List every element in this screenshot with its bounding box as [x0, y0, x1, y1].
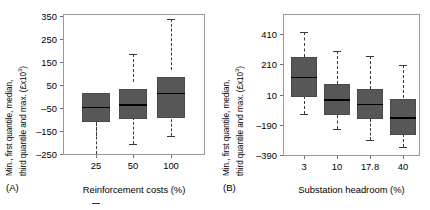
panel-a-xtick-mark	[133, 155, 134, 158]
panel-a-xtick-mark	[171, 155, 172, 158]
box-iqr	[157, 77, 185, 119]
whisker-upper	[370, 56, 371, 89]
whisker-cap-lower	[129, 144, 137, 145]
median-line	[291, 77, 317, 78]
whisker-lower	[96, 122, 97, 154]
panel-a-tag: (A)	[6, 182, 19, 193]
panel-b-xtick-label: 3	[301, 161, 306, 172]
panel-b-ytick-label: –390	[247, 150, 277, 161]
whisker-cap-lower	[167, 136, 175, 137]
panel-b-xtick-label: 10	[332, 161, 342, 172]
whisker-cap-lower	[366, 140, 374, 141]
panel-b-xtick-label: 17.8	[361, 161, 379, 172]
median-line	[390, 117, 416, 118]
whisker-upper	[337, 51, 338, 84]
panel-b-tag: (B)	[223, 182, 236, 193]
whisker-lower	[337, 115, 338, 129]
panel-a-xtick-label: 50	[128, 160, 138, 171]
whisker-upper	[403, 65, 404, 98]
panel-a-ytick-label: 50	[29, 80, 57, 91]
panel-a-ytick-label: 150	[29, 57, 57, 68]
panel-b-ytick-label: 410	[247, 29, 277, 40]
panel-b-x-axis-title: Substation headroom (%)	[283, 184, 420, 195]
panel-b-y-axis-title-line1: Min., first quantile, median,	[221, 66, 232, 176]
panel-b: Min., first quantile, median, third quan…	[215, 0, 430, 210]
whisker-lower	[304, 96, 305, 114]
panel-a-xtick-label: 25	[91, 160, 101, 171]
whisker-cap-upper	[333, 51, 341, 52]
panel-a-xtick-label: 100	[163, 160, 179, 171]
panel-a-y-axis-title-line1: Min., first quantile, median,	[4, 66, 15, 176]
panel-b-xtick-mark	[370, 156, 371, 159]
whisker-cap-upper	[366, 56, 374, 57]
panel-a: Min., first quantile, median, third quan…	[0, 0, 215, 210]
panel-a-ytick-label: 250	[29, 34, 57, 45]
whisker-cap-lower	[92, 203, 100, 204]
panel-a-ytick-label: –250	[29, 149, 57, 160]
whisker-upper	[171, 19, 172, 70]
panel-b-xtick-mark	[403, 156, 404, 159]
whisker-upper	[304, 32, 305, 57]
panel-a-xtick-mark	[96, 155, 97, 158]
whisker-lower	[133, 117, 134, 144]
whisker-cap-upper	[300, 32, 308, 33]
panel-b-ytick-label: 10	[247, 90, 277, 101]
median-line	[157, 93, 185, 94]
median-line	[119, 104, 147, 105]
panel-b-ytick-label: 210	[247, 59, 277, 70]
whisker-cap-upper	[399, 65, 407, 66]
panel-b-y-axis-title: Min., first quantile, median, third quan…	[221, 66, 245, 176]
whisker-cap-lower	[300, 114, 308, 115]
whisker-upper	[133, 54, 134, 82]
panel-b-ytick-label: –190	[247, 120, 277, 131]
panel-b-xtick-mark	[337, 156, 338, 159]
median-line	[324, 99, 350, 100]
whisker-lower	[403, 134, 404, 147]
panel-a-y-axis-title: Min., first quantile, median, third quan…	[4, 66, 28, 176]
panel-a-ytick-label: –150	[29, 126, 57, 137]
median-line	[357, 104, 383, 105]
panel-a-y-axis-title-line2: third quantile and max. (£x103)	[15, 66, 28, 176]
whisker-cap-lower	[333, 129, 341, 130]
panel-a-ytick-label: –50	[29, 103, 57, 114]
panel-b-xtick-mark	[304, 156, 305, 159]
panel-a-ytick-label: 350	[29, 11, 57, 22]
median-line	[82, 107, 110, 108]
panel-a-x-axis-title: Reinforcement costs (%)	[63, 184, 205, 195]
whisker-lower	[370, 119, 371, 140]
panel-b-y-axis-title-line2: third quantile and max. (£x103)	[232, 66, 245, 176]
whisker-cap-lower	[399, 147, 407, 148]
panel-b-xtick-label: 40	[398, 161, 408, 172]
